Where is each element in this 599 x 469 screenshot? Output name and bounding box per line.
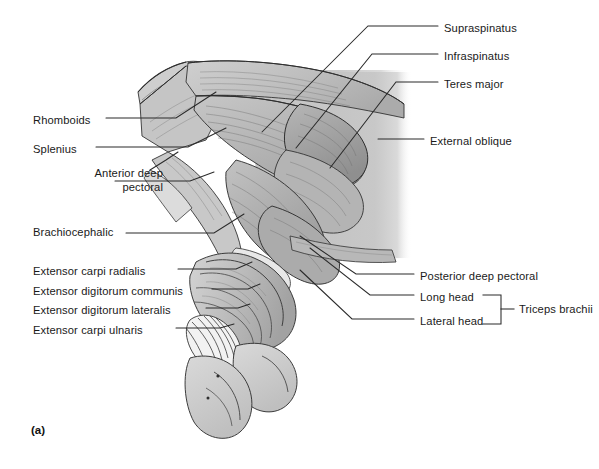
label-extensor-digitorum-lateralis-text: Extensor digitorum lateralis: [33, 304, 171, 316]
label-external-oblique-text: External oblique: [430, 135, 512, 147]
label-external-oblique: External oblique: [430, 135, 512, 148]
label-extensor-carpi-ulnaris: Extensor carpi ulnaris: [33, 324, 143, 337]
label-teres-major-text: Teres major: [444, 78, 504, 90]
label-brachiocephalic-text: Brachiocephalic: [33, 226, 113, 238]
label-infraspinatus: Infraspinatus: [444, 50, 509, 63]
label-anterior-deep-pectoral-line1: Anterior deep: [33, 166, 163, 180]
panel-letter: (a): [31, 424, 45, 436]
label-rhomboids: Rhomboids: [33, 114, 91, 127]
triceps-brachii-bracket: [483, 295, 514, 324]
label-long-head: Long head: [420, 291, 474, 304]
label-long-head-text: Long head: [420, 291, 474, 303]
label-extensor-digitorum-communis: Extensor digitorum communis: [33, 285, 183, 298]
label-anterior-deep-pectoral-line2: pectoral: [33, 180, 163, 194]
label-extensor-carpi-radialis: Extensor carpi radialis: [33, 265, 145, 278]
label-rhomboids-text: Rhomboids: [33, 114, 91, 126]
label-triceps-brachii: Triceps brachii: [519, 303, 593, 316]
label-brachiocephalic: Brachiocephalic: [33, 226, 113, 239]
label-teres-major: Teres major: [444, 78, 504, 91]
label-splenius-text: Splenius: [33, 143, 77, 155]
label-splenius: Splenius: [33, 143, 77, 156]
label-supraspinatus-text: Supraspinatus: [444, 22, 517, 34]
label-lateral-head-text: Lateral head: [420, 315, 483, 327]
distal-limb-digits: [185, 343, 297, 438]
label-infraspinatus-text: Infraspinatus: [444, 50, 509, 62]
label-triceps-brachii-text: Triceps brachii: [519, 303, 593, 315]
label-extensor-carpi-ulnaris-text: Extensor carpi ulnaris: [33, 324, 143, 336]
anatomy-figure: Rhomboids Splenius Anterior deep pectora…: [0, 0, 599, 469]
label-lateral-head: Lateral head: [420, 315, 483, 328]
label-extensor-digitorum-lateralis: Extensor digitorum lateralis: [33, 304, 171, 317]
label-posterior-deep-pectoral: Posterior deep pectoral: [420, 270, 538, 283]
label-extensor-carpi-radialis-text: Extensor carpi radialis: [33, 265, 145, 277]
label-anterior-deep-pectoral: Anterior deep pectoral: [33, 166, 163, 194]
label-extensor-digitorum-communis-text: Extensor digitorum communis: [33, 285, 183, 297]
label-posterior-deep-pectoral-text: Posterior deep pectoral: [420, 270, 538, 282]
label-supraspinatus: Supraspinatus: [444, 22, 517, 35]
